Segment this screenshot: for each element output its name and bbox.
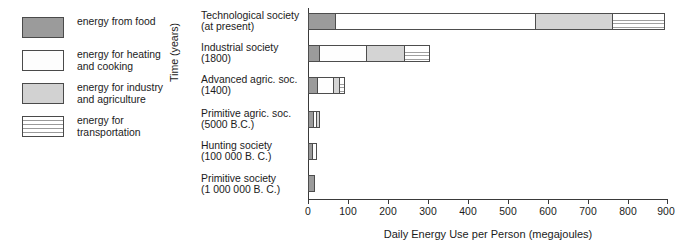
x-tick-900 [667,199,668,204]
y-axis-line [308,8,309,200]
x-tick-label-500: 500 [499,206,516,217]
x-axis-line [308,199,668,200]
x-tick-label-800: 800 [619,206,636,217]
x-tick-400 [468,199,469,204]
bar-segment-food [308,175,315,192]
bar-primitive-society [308,175,315,192]
x-tick-200 [388,199,389,204]
bar-segment-heating [312,143,318,160]
x-tick-label-700: 700 [579,206,596,217]
bar-segment-industry [366,45,405,62]
x-tick-label-400: 400 [459,206,476,217]
bar-segment-transportation [339,77,345,94]
bar-industrial-society [308,45,430,62]
x-tick-300 [428,199,429,204]
category-label-technological-society: Technological society (at present) [201,10,299,33]
x-tick-100 [348,199,349,204]
bar-segment-heating [319,45,367,62]
x-tick-500 [508,199,509,204]
bar-segment-food [308,13,336,30]
x-tick-label-300: 300 [419,206,436,217]
bar-hunting-society [308,143,317,160]
bar-advanced-agric-soc [308,77,345,94]
x-tick-label-100: 100 [339,206,356,217]
bar-technological-society [308,13,665,30]
bar-segment-industry [316,111,320,128]
x-tick-label-900: 900 [657,206,674,217]
category-label-industrial-society: Industrial society (1800) [201,42,278,65]
bar-segment-heating [317,77,334,94]
category-label-primitive-agric-soc: Primitive agric. soc. (5000 B.C.) [201,108,291,131]
x-tick-label-600: 600 [539,206,556,217]
x-tick-700 [588,199,589,204]
x-tick-label-0: 0 [305,206,311,217]
x-tick-0 [308,199,309,204]
bar-segment-industry [535,13,613,30]
category-label-hunting-society: Hunting society (100 000 B. C.) [201,140,272,163]
y-axis-label: Time (years) [168,0,180,82]
bar-segment-transportation [612,13,665,30]
plot-area: 0 100 200 300 400 500 600 700 800 900 [308,8,668,200]
x-tick-label-200: 200 [379,206,396,217]
category-label-primitive-society: Primitive society (1 000 000 B. C.) [201,173,280,196]
category-label-advanced-agric-soc: Advanced agric. soc. (1400) [201,74,297,97]
bar-segment-transportation [404,45,430,62]
x-tick-600 [548,199,549,204]
x-tick-800 [628,199,629,204]
x-axis-label: Daily Energy Use per Person (megajoules) [308,228,668,240]
bar-primitive-agric-soc [308,111,320,128]
bar-segment-heating [335,13,536,30]
